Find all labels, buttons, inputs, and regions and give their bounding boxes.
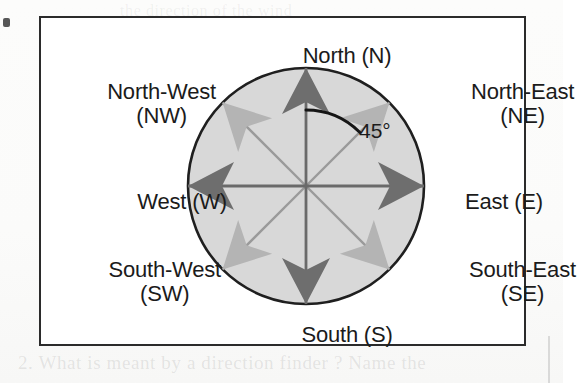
label-south-west: South-West (SW) (108, 258, 221, 306)
label-north-west-line1: North-West (107, 79, 216, 104)
label-south-east-line1: South-East (469, 257, 576, 282)
label-east: East (E) (465, 190, 543, 214)
label-north-east-line2: (NE) (471, 104, 574, 128)
label-north: North (N) (303, 44, 392, 68)
label-west: West (W) (137, 190, 227, 214)
label-north-east-line1: North-East (471, 79, 574, 104)
label-east-line1: East (E) (465, 189, 543, 214)
label-south-east-line2: (SE) (469, 282, 576, 306)
label-south-line1: South (S) (301, 322, 392, 347)
figure-frame: North (N) North-East (NE) East (E) South… (39, 16, 526, 346)
label-south-east: South-East (SE) (469, 258, 576, 306)
label-north-line1: North (N) (303, 43, 392, 68)
label-north-east: North-East (NE) (471, 80, 574, 128)
page-right-rule (548, 336, 550, 383)
label-north-west-line2: (NW) (107, 104, 216, 128)
label-north-west: North-West (NW) (107, 80, 216, 128)
label-south-west-line1: South-West (108, 257, 221, 282)
label-south-west-line2: (SW) (108, 282, 221, 306)
scan-bleed-text-bottom: 2. What is meant by a direction finder ?… (18, 352, 538, 374)
label-south: South (S) (301, 323, 392, 347)
label-west-line1: West (W) (137, 189, 227, 214)
page-edge-mark (3, 18, 10, 27)
angle-label: 45° (359, 119, 391, 143)
